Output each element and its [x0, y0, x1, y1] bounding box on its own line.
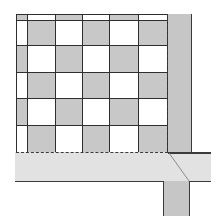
miter-joint-line	[0, 0, 221, 224]
